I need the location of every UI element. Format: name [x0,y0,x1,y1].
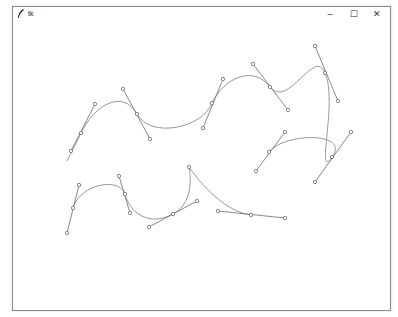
control-handle[interactable] [349,130,352,133]
anchor-point[interactable] [187,165,190,168]
anchor-point[interactable] [71,206,74,209]
control-handle[interactable] [254,169,257,172]
upper-curve[interactable] [67,66,335,161]
control-handle[interactable] [65,231,68,234]
control-handle[interactable] [148,137,151,140]
control-handle[interactable] [69,149,72,152]
control-handle[interactable] [283,130,286,133]
control-handle[interactable] [283,216,286,219]
control-handle[interactable] [313,180,316,183]
control-handle[interactable] [121,87,124,90]
drawing-canvas[interactable] [13,21,390,310]
anchor-point[interactable] [79,131,82,134]
control-handle[interactable] [93,102,96,105]
anchor-point[interactable] [267,150,270,153]
control-handle[interactable] [147,225,150,228]
control-handle[interactable] [77,183,80,186]
control-handle[interactable] [128,211,131,214]
control-handle[interactable] [221,77,224,80]
anchor-point[interactable] [268,85,271,88]
anchor-point[interactable] [249,213,252,216]
anchor-point[interactable] [210,101,213,104]
app-window: tk – ☐ ✕ [12,6,391,311]
control-handle[interactable] [286,108,289,111]
bezier-drawing[interactable] [1,1,398,317]
control-handle[interactable] [313,44,316,47]
anchor-point[interactable] [171,212,174,215]
control-handle[interactable] [216,209,219,212]
control-handle[interactable] [195,199,198,202]
control-handle[interactable] [201,126,204,129]
handle-line [71,104,95,151]
anchor-point[interactable] [135,112,138,115]
anchor-point[interactable] [323,71,326,74]
control-handle[interactable] [336,99,339,102]
control-handle[interactable] [251,62,254,65]
lower-curve[interactable] [73,167,251,219]
anchor-point[interactable] [123,192,126,195]
anchor-point[interactable] [330,155,333,158]
control-handle[interactable] [117,174,120,177]
